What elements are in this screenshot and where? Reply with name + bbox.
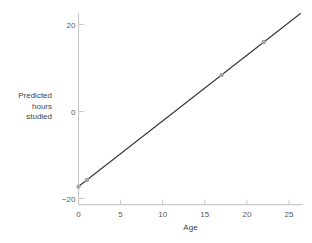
y-tick-label: −20	[62, 195, 76, 204]
regression-line	[79, 13, 301, 186]
data-point	[85, 178, 89, 182]
x-axis-title: Age	[183, 223, 198, 232]
x-tick-label: 25	[285, 210, 294, 219]
regression-figure: 0510152025−20020PredictedhoursstudiedAge	[0, 0, 312, 243]
x-tick-label: 10	[158, 210, 167, 219]
y-axis-title: studied	[26, 112, 52, 121]
chart-canvas: 0510152025−20020PredictedhoursstudiedAge	[0, 0, 312, 243]
x-tick-label: 20	[242, 210, 251, 219]
data-point	[262, 40, 266, 44]
y-tick-label: 20	[67, 21, 76, 30]
x-tick-label: 15	[200, 210, 209, 219]
y-axis-title: Predicted	[18, 91, 52, 100]
data-point	[76, 184, 80, 188]
y-axis-title: hours	[32, 102, 52, 111]
data-point	[219, 73, 223, 77]
x-tick-label: 0	[76, 210, 81, 219]
x-tick-label: 5	[118, 210, 123, 219]
y-tick-label: 0	[71, 108, 76, 117]
